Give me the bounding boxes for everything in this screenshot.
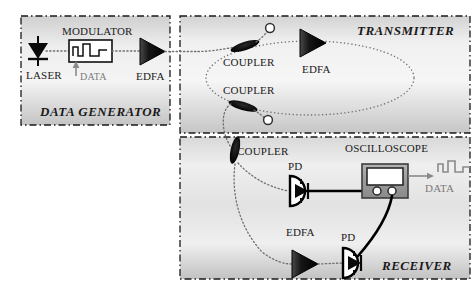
- oscilloscope-port-1: [373, 187, 381, 195]
- oscilloscope-icon: [362, 164, 408, 198]
- edfa-datagen-label: EDFA: [136, 71, 165, 82]
- open-port-top-icon: [266, 24, 275, 33]
- panel-label-data-generator: DATA GENERATOR: [40, 105, 161, 118]
- panel-label-transmitter: TRANSMITTER: [357, 24, 454, 37]
- open-port-bottom-icon: [264, 116, 273, 125]
- oscilloscope-screen: [367, 168, 403, 185]
- laser-label: LASER: [26, 70, 62, 81]
- data-output-label: DATA: [425, 183, 454, 194]
- pd-bottom-label: PD: [341, 232, 355, 243]
- coupler-receiver-label: COUPLER: [237, 146, 289, 157]
- edfa-receiver-label: EDFA: [286, 227, 315, 238]
- oscilloscope-label: OSCILLOSCOPE: [345, 143, 428, 154]
- pd-top-label: PD: [288, 161, 302, 172]
- panel-label-receiver: RECEIVER: [382, 259, 452, 272]
- coupler-bottom-label: COUPLER: [223, 85, 275, 96]
- data-input-label: DATA: [80, 72, 107, 82]
- coupler-top-label: COUPLER: [223, 57, 275, 68]
- system-diagram: LASER MODULATOR DATA EDFA DATA GENERATOR…: [0, 0, 476, 291]
- modulator-block: [69, 40, 112, 62]
- modulator-label: MODULATOR: [62, 26, 133, 37]
- oscilloscope-port-2: [388, 187, 396, 195]
- edfa-transmitter-label: EDFA: [302, 64, 331, 75]
